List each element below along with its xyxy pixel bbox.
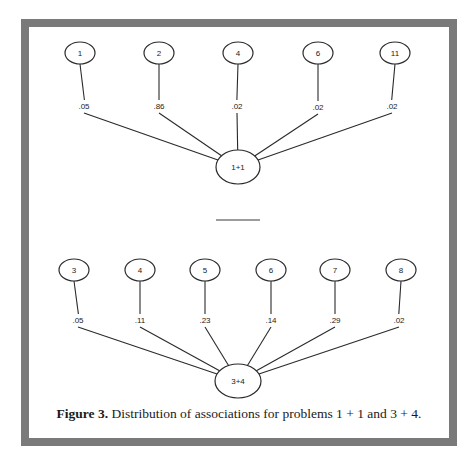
answer-label: 7 bbox=[333, 266, 338, 275]
caption-label: Figure 3. bbox=[57, 406, 109, 421]
probability-label: .05 bbox=[72, 316, 84, 325]
caption-text: Distribution of associations for problem… bbox=[108, 406, 421, 421]
answer-label: 3 bbox=[72, 266, 77, 275]
probability-label: .02 bbox=[231, 102, 243, 111]
answer-label: 8 bbox=[399, 266, 404, 275]
answer-label: 11 bbox=[391, 49, 400, 58]
probability-label: .02 bbox=[386, 102, 398, 111]
edge-prob-to-problem bbox=[84, 113, 218, 160]
edge-prob-to-problem bbox=[256, 327, 335, 371]
probability-label: .02 bbox=[312, 103, 324, 112]
edge-prob-to-problem bbox=[247, 327, 271, 366]
edge-prob-to-problem bbox=[159, 113, 222, 156]
edge-prob-to-problem bbox=[78, 327, 217, 374]
probability-label: .86 bbox=[153, 102, 165, 111]
answer-label: 6 bbox=[269, 266, 274, 275]
edge-answer-to-prob bbox=[399, 281, 401, 314]
edge-prob-to-problem bbox=[237, 113, 238, 150]
probability-label: .14 bbox=[265, 316, 277, 325]
edge-answer-to-prob bbox=[80, 64, 84, 100]
edge-prob-to-problem bbox=[140, 327, 220, 371]
answer-label: 2 bbox=[157, 49, 162, 58]
probability-label: .29 bbox=[329, 316, 341, 325]
probability-label: .11 bbox=[135, 316, 146, 325]
problem-label: 1+1 bbox=[231, 163, 245, 172]
answer-label: 6 bbox=[316, 49, 321, 58]
figure-caption: Figure 3. Distribution of associations f… bbox=[29, 406, 449, 422]
answer-label: 4 bbox=[138, 266, 143, 275]
diagram-1-plus-1: 1.052.864.026.0211.021+1 bbox=[65, 42, 410, 184]
edge-answer-to-prob bbox=[392, 64, 395, 100]
edge-answer-to-prob bbox=[237, 64, 238, 100]
edge-prob-to-problem bbox=[259, 327, 399, 374]
answer-label: 5 bbox=[203, 266, 208, 275]
edge-answer-to-prob bbox=[74, 281, 78, 314]
probability-label: .05 bbox=[78, 102, 90, 111]
diagram-layer: 1.052.864.026.0211.021+13.054.115.236.14… bbox=[59, 42, 416, 398]
problem-label: 3+4 bbox=[231, 377, 245, 386]
probability-label: .23 bbox=[199, 316, 211, 325]
answer-label: 4 bbox=[236, 49, 241, 58]
probability-label: .02 bbox=[393, 316, 405, 325]
association-diagram: 1.052.864.026.0211.021+13.054.115.236.14… bbox=[0, 0, 475, 458]
answer-label: 1 bbox=[78, 49, 83, 58]
edge-prob-to-problem bbox=[258, 113, 392, 160]
diagram-3-plus-4: 3.054.115.236.147.298.023+4 bbox=[59, 259, 416, 398]
edge-prob-to-problem bbox=[205, 327, 229, 366]
